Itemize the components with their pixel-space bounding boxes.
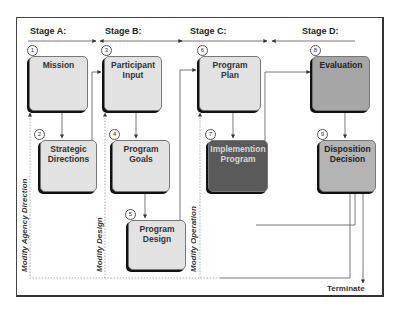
step-number-7: 7 — [205, 129, 216, 140]
box-program-plan: Program Plan — [199, 56, 261, 111]
stage-a-label: Stage A: — [30, 26, 66, 36]
step-number-9: 9 — [317, 129, 328, 140]
terminate-label: Terminate — [327, 284, 365, 293]
box-evaluation: Evaluation — [312, 56, 370, 111]
box-implementation-program: Implemention Program — [208, 140, 268, 192]
step-number-5: 5 — [125, 209, 136, 220]
box-label: Program — [209, 154, 267, 164]
stage-d-label: Stage D: — [302, 26, 339, 36]
box-label: Plan — [200, 70, 260, 80]
box-label: Program — [200, 60, 260, 70]
stage-c-label: Stage C: — [190, 26, 227, 36]
box-label: Evaluation — [313, 60, 369, 70]
box-label: Decision — [320, 154, 375, 164]
box-label: Program — [129, 224, 185, 234]
box-label: Goals — [113, 154, 169, 164]
step-number-6: 6 — [197, 45, 208, 56]
stage-b-label: Stage B: — [105, 26, 142, 36]
box-label: Mission — [30, 60, 87, 70]
box-label: Directions — [41, 154, 96, 164]
step-number-3: 3 — [101, 45, 112, 56]
box-program-design: Program Design — [128, 220, 186, 270]
box-program-goals: Program Goals — [112, 140, 170, 192]
box-label: Input — [105, 70, 161, 80]
box-participant-input: Participant Input — [104, 56, 162, 111]
box-label: Implemention — [209, 144, 267, 154]
step-number-2: 2 — [34, 129, 45, 140]
box-label: Strategic — [41, 144, 96, 154]
box-strategic-directions: Strategic Directions — [40, 140, 97, 192]
step-number-4: 4 — [109, 129, 120, 140]
box-label: Disposition — [320, 144, 375, 154]
step-number-1: 1 — [27, 45, 38, 56]
box-label: Program — [113, 144, 169, 154]
box-label: Participant — [105, 60, 161, 70]
box-mission: Mission — [29, 56, 88, 111]
step-number-8: 8 — [310, 45, 321, 56]
box-label: Design — [129, 234, 185, 244]
box-disposition-decision: Disposition Decision — [319, 140, 376, 192]
modify-operation-label: Modify Operation — [189, 206, 198, 272]
modify-design-label: Modify Design — [95, 217, 104, 272]
modify-agency-direction-label: Modify Agency Direction — [20, 179, 29, 273]
